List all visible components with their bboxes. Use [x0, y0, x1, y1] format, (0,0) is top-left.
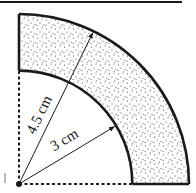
clipped-glyph: [4, 173, 6, 183]
center-point: [16, 181, 22, 187]
outer-radius-label: 4.5 cm: [23, 93, 55, 137]
quarter-annulus-diagram: 4.5 cm 3 cm: [0, 0, 196, 193]
